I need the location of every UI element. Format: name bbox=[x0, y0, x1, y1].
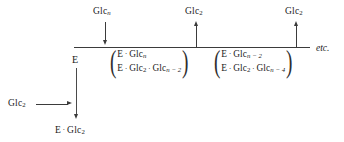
label-glc2-output-second: Glc2 bbox=[285, 7, 303, 17]
arrow-shaft-glc-n-input bbox=[105, 22, 106, 41]
glc2-species-second: Glc bbox=[285, 6, 299, 16]
arrowhead-down-glc-n-input bbox=[103, 40, 107, 45]
arrowhead-up-glc2-output-second bbox=[294, 21, 298, 26]
glc2-subscript-second: 2 bbox=[299, 9, 302, 16]
arrowhead-up-glc2-output-first bbox=[194, 21, 198, 26]
g2-bot-glc2: Glc bbox=[233, 63, 247, 73]
arrowhead-down-enzyme-branch bbox=[74, 114, 78, 119]
complex-group-2: ( E·Glcn − 2 E·Glc2·Glcn − 4 ) bbox=[212, 50, 294, 75]
label-glc-n-input: Glcn bbox=[93, 7, 111, 17]
complex-group-2-bottom-row: E·Glc2·Glcn − 4 bbox=[221, 64, 285, 74]
g2-top-glc-sub: n − 2 bbox=[247, 52, 262, 59]
g2-bot-glcn: Glc bbox=[256, 63, 270, 73]
product-glc-sub: 2 bbox=[81, 128, 84, 135]
left-paren-group-1: ( bbox=[110, 50, 116, 74]
arrow-shaft-glc2-output-second bbox=[296, 26, 297, 47]
etc-label: etc. bbox=[316, 43, 329, 53]
g1-top-glc: Glc bbox=[129, 49, 143, 59]
glc-n-species: Glc bbox=[93, 6, 107, 16]
label-enzyme-glc2-complex: E·Glc2 bbox=[55, 126, 85, 136]
product-glc: Glc bbox=[67, 125, 81, 135]
glc2-subscript-first: 2 bbox=[199, 9, 202, 16]
reaction-scheme-diagram: Glcn Glc2 Glc2 etc. E ( E·Glcn E·Glc2·Gl… bbox=[0, 0, 344, 142]
complex-group-1-bottom-row: E·Glc2·Glcn − 2 bbox=[117, 64, 181, 74]
glc2-species-first: Glc bbox=[185, 6, 199, 16]
right-paren-group-1: ) bbox=[182, 50, 188, 74]
arrow-shaft-glc2-output-first bbox=[196, 26, 197, 47]
label-glc2-output-first: Glc2 bbox=[185, 7, 203, 17]
complex-group-2-top-row: E·Glcn − 2 bbox=[221, 50, 285, 60]
g1-bot-glcn-sub: n − 2 bbox=[166, 67, 181, 74]
glc-n-subscript: n bbox=[107, 9, 110, 16]
g1-bot-glcn: Glc bbox=[152, 63, 166, 73]
g1-top-glc-sub: n bbox=[143, 52, 146, 59]
complex-group-1-top-row: E·Glcn bbox=[117, 50, 181, 60]
arrowhead-right-glc2-reactant bbox=[67, 101, 72, 105]
glc2-reactant-subscript: 2 bbox=[22, 101, 25, 108]
left-paren-group-2: ( bbox=[214, 50, 220, 74]
label-free-enzyme: E bbox=[72, 55, 78, 65]
g1-bot-glc2: Glc bbox=[129, 63, 143, 73]
g2-top-glc: Glc bbox=[233, 49, 247, 59]
complex-group-1: ( E·Glcn E·Glc2·Glcn − 2 ) bbox=[108, 50, 190, 75]
arrow-shaft-glc2-reactant bbox=[36, 104, 68, 105]
g2-bot-glcn-sub: n − 4 bbox=[270, 67, 285, 74]
right-paren-group-2: ) bbox=[286, 50, 292, 74]
label-glc2-reactant: Glc2 bbox=[8, 99, 26, 109]
glc2-reactant-species: Glc bbox=[8, 98, 22, 108]
enzyme-branch-shaft bbox=[76, 68, 77, 116]
